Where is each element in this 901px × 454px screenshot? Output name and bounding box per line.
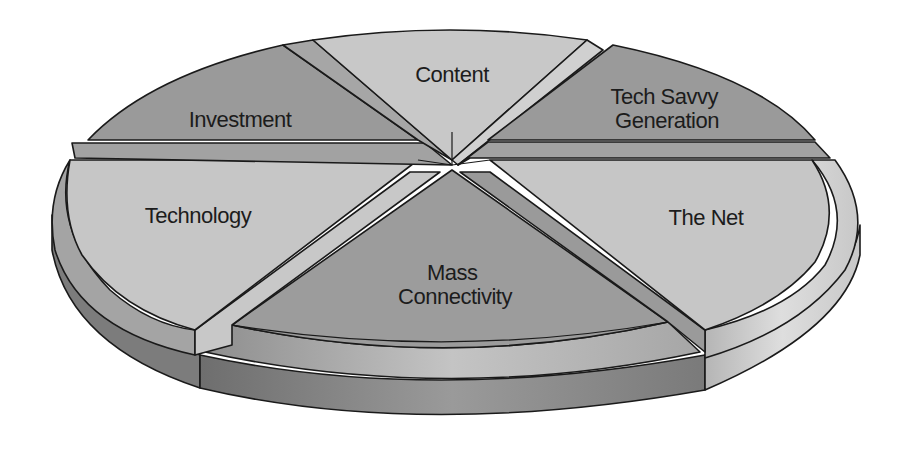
label-the-net: The Net	[669, 205, 744, 230]
label-investment: Investment	[189, 107, 292, 132]
label-tech-savvy-generation: Tech Savvy Generation	[610, 84, 723, 133]
label-technology: Technology	[145, 203, 252, 228]
label-content: Content	[415, 62, 489, 87]
pie-diagram: Content Tech Savvy Generation The Net Ma…	[0, 0, 901, 454]
